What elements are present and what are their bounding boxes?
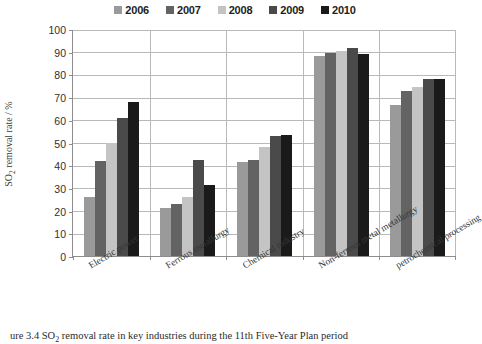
- bar-2008: [336, 51, 347, 256]
- bar-2008: [106, 143, 117, 257]
- legend-item-2007: 2007: [166, 5, 201, 16]
- bar-group-bars: [73, 29, 150, 256]
- legend-item-2010: 2010: [321, 5, 356, 16]
- y-tick-label: 60: [54, 115, 66, 127]
- legend-swatch-2006: [114, 6, 122, 14]
- legend-swatch-2010: [321, 6, 329, 14]
- bar-2008: [259, 147, 270, 256]
- bar-2006: [237, 162, 248, 256]
- bar-2009: [423, 79, 434, 256]
- y-axis-title-subscript: 2: [8, 170, 17, 174]
- bar-group-bars: [226, 29, 303, 256]
- legend-swatch-2007: [166, 6, 174, 14]
- bar-group: [73, 29, 150, 256]
- bar-group-bars: [150, 29, 227, 256]
- y-tick-label: 70: [54, 92, 66, 104]
- chart-legend: 2006 2007 2008 2009 2010: [0, 2, 470, 18]
- legend-label-2006: 2006: [125, 5, 149, 16]
- bar-2009: [347, 48, 358, 256]
- figure-caption: ure 3.4 SO2 removal rate in key industri…: [10, 330, 470, 344]
- caption-suffix: removal rate in key industries during th…: [59, 330, 348, 341]
- x-axis-tick: [226, 256, 227, 260]
- legend-swatch-2008: [218, 6, 226, 14]
- x-axis-tick: [150, 256, 151, 260]
- y-tick-label: 30: [54, 183, 66, 195]
- x-axis-tick: [73, 256, 74, 260]
- bar-group: [303, 29, 380, 256]
- y-axis-title-prefix: SO: [3, 173, 14, 186]
- y-tick-label: 40: [54, 160, 66, 172]
- bar-group: [226, 29, 303, 256]
- bar-2006: [84, 197, 95, 256]
- legend-item-2006: 2006: [114, 5, 149, 16]
- legend-label-2009: 2009: [280, 5, 304, 16]
- bar-2010: [434, 79, 445, 256]
- bar-2007: [95, 161, 106, 256]
- bar-2010: [358, 54, 369, 256]
- y-tick-label: 0: [60, 251, 66, 263]
- y-tick-label: 50: [54, 138, 66, 150]
- y-axis-title: SO2 removal rate / %: [2, 30, 18, 257]
- legend-label-2008: 2008: [229, 5, 253, 16]
- y-tick-label: 20: [54, 206, 66, 218]
- bar-group: [150, 29, 227, 256]
- bar-2007: [325, 53, 336, 256]
- bar-2007: [171, 204, 182, 256]
- x-axis-tick: [379, 256, 380, 260]
- legend-label-2007: 2007: [177, 5, 201, 16]
- x-axis-tick: [303, 256, 304, 260]
- y-tick-label: 80: [54, 69, 66, 81]
- legend-label-2010: 2010: [332, 5, 356, 16]
- y-tick-label: 10: [54, 228, 66, 240]
- legend-item-2009: 2009: [269, 5, 304, 16]
- bar-2006: [314, 56, 325, 256]
- bar-group-bars: [303, 29, 380, 256]
- y-tick-label: 90: [54, 47, 66, 59]
- y-tick-label: 100: [48, 24, 66, 36]
- bar-2006: [390, 105, 401, 256]
- bar-2007: [401, 91, 412, 256]
- legend-swatch-2009: [269, 6, 277, 14]
- x-axis-tick: [455, 256, 456, 260]
- legend-item-2008: 2008: [218, 5, 253, 16]
- bar-2007: [248, 160, 259, 256]
- bar-2008: [412, 87, 423, 256]
- caption-prefix: ure 3.4 SO: [10, 330, 55, 341]
- bar-2009: [117, 118, 128, 256]
- bar-2006: [160, 208, 171, 256]
- y-axis-title-suffix: removal rate / %: [3, 101, 14, 170]
